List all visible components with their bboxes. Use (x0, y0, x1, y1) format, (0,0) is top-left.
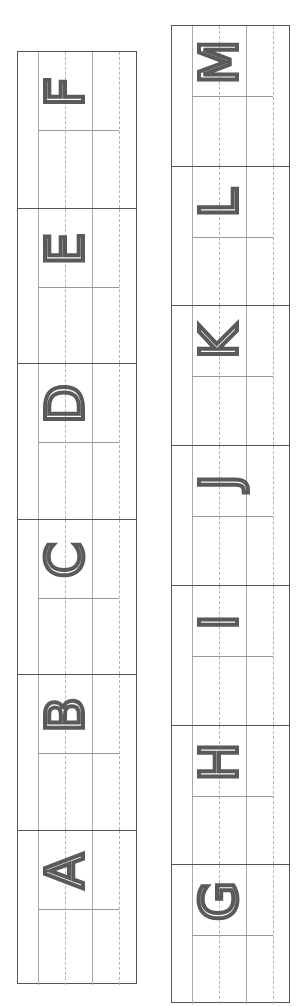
baseline-guide (192, 237, 273, 238)
letter-glyph: J (193, 474, 245, 489)
dashed-guide-line (119, 520, 120, 675)
dashed-guide-line (273, 586, 274, 725)
practice-letter: C (38, 532, 92, 588)
letter-glyph: K (193, 325, 245, 359)
baseline-guide (38, 753, 119, 754)
dashed-guide-line (119, 831, 120, 986)
left-letter-column: FEDCBA (17, 51, 137, 984)
letter-glyph: L (193, 188, 245, 217)
baseline-guide (192, 516, 273, 517)
dashed-guide-line (119, 209, 120, 364)
dashed-guide-line (273, 865, 274, 1004)
letter-cell: D (18, 363, 136, 519)
letter-cell: L (172, 166, 289, 306)
baseline-guide (192, 935, 273, 936)
letter-cell: E (18, 208, 136, 364)
practice-letter: F (38, 64, 92, 120)
baseline-guide (38, 598, 119, 599)
practice-letter: G (192, 876, 246, 926)
letter-glyph: G (193, 881, 245, 921)
dashed-guide-line (119, 364, 120, 519)
practice-letter: E (38, 221, 92, 277)
dashed-guide-line (273, 726, 274, 865)
letter-glyph: C (39, 541, 91, 577)
letter-glyph: H (193, 742, 245, 781)
practice-letter: J (192, 457, 246, 507)
letter-cell: I (172, 585, 289, 725)
baseline-guide (192, 96, 273, 97)
baseline-guide (38, 287, 119, 288)
letter-cell: H (172, 725, 289, 865)
letter-glyph: E (39, 232, 91, 265)
baseline-guide (192, 656, 273, 657)
letter-cell: K (172, 305, 289, 445)
letter-cell: M (172, 26, 289, 166)
dashed-guide-line (119, 675, 120, 830)
letter-cell: F (18, 52, 136, 208)
dashed-guide-line (273, 306, 274, 445)
baseline-guide (192, 796, 273, 797)
letter-glyph: D (39, 384, 91, 424)
baseline-guide (38, 130, 119, 131)
letter-cell: C (18, 519, 136, 675)
practice-letter: L (192, 178, 246, 228)
letter-glyph: B (39, 697, 91, 733)
dashed-guide-line (273, 26, 274, 166)
letter-glyph: M (193, 40, 245, 85)
letter-glyph: F (39, 77, 91, 107)
baseline-guide (38, 442, 119, 443)
practice-letter: D (38, 376, 92, 432)
dashed-guide-line (273, 167, 274, 306)
practice-letter: K (192, 317, 246, 367)
practice-letter: A (38, 843, 92, 899)
practice-letter: I (192, 597, 246, 647)
letter-cell: G (172, 864, 289, 1004)
baseline-guide (38, 909, 119, 910)
right-letter-column: MLKJIHG (171, 25, 290, 1003)
practice-letter: B (38, 687, 92, 743)
letter-cell: J (172, 445, 289, 585)
letter-cell: B (18, 674, 136, 830)
letter-glyph: I (193, 614, 245, 629)
letter-glyph: A (39, 853, 91, 889)
dashed-guide-line (273, 446, 274, 585)
letter-cell: A (18, 830, 136, 986)
practice-letter: H (192, 737, 246, 787)
baseline-guide (192, 376, 273, 377)
practice-letter: M (192, 37, 246, 87)
dashed-guide-line (119, 52, 120, 208)
